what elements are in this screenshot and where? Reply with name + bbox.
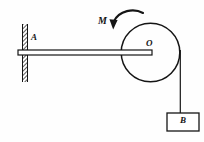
- label-b-block: B: [180, 116, 186, 125]
- mechanics-figure: A O M B: [0, 0, 204, 142]
- horizontal-rod-icon: [18, 50, 152, 55]
- label-m-moment: M: [98, 16, 107, 26]
- label-a: A: [31, 33, 37, 42]
- label-o: O: [146, 39, 153, 48]
